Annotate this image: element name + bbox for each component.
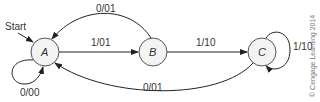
edge-label-a-to-b: 1/01 [91,37,111,48]
edge-label-b-to-a: 0/01 [96,3,116,14]
edge-b-to-c: 1/10 [167,37,247,52]
copyright-text: © Cengage Learning 2014 [309,15,317,97]
edge-label-c-to-a: 0/01 [143,82,163,93]
edge-label-a-self: 0/00 [20,87,40,98]
edge-b-to-a: 0/01 [52,3,151,39]
edge-a-to-b: 1/01 [59,37,138,52]
edge-label-b-to-c: 1/10 [196,37,216,48]
start-label: Start [5,21,26,32]
start-arrow [18,33,33,42]
state-a: A [31,38,59,66]
edge-a-self-loop: 0/00 [12,60,43,98]
state-a-label: A [40,46,48,58]
state-b-label: B [149,46,156,58]
state-diagram: Start 0/01 1/01 1/10 0/01 0/00 1/10 A B [0,0,320,102]
state-b: B [139,38,167,66]
edge-c-to-a: 0/01 [55,63,253,93]
state-c: C [248,38,276,66]
state-c-label: C [258,46,266,58]
start-indicator: Start [5,21,33,42]
